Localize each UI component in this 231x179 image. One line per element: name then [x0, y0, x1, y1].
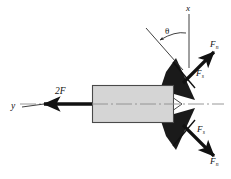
diagram-svg [0, 0, 231, 179]
shear-force-bottom-subscript: s [203, 129, 205, 135]
normal-force-bottom-subscript: n [216, 161, 219, 167]
shear-force-top-label: Fs [196, 69, 204, 78]
axis-x-label: x [186, 4, 190, 13]
figure-canvas: x θ Fn Fs 2F y Fs Fn [0, 0, 231, 179]
shear-force-bottom-symbol: F [197, 124, 203, 134]
shear-force-top-symbol: F [196, 68, 202, 78]
theta-arc [160, 33, 186, 40]
normal-force-bottom-label: Fn [210, 157, 218, 166]
angle-theta-label: θ [165, 27, 169, 36]
normal-force-top-symbol: F [210, 39, 216, 49]
axis-y-label: y [11, 102, 15, 112]
shear-force-bottom-label: Fs [197, 125, 205, 134]
normal-force-top-subscript: n [216, 44, 219, 50]
normal-force-bottom-symbol: F [210, 156, 216, 166]
shear-force-top-subscript: s [202, 73, 204, 79]
applied-force-label: 2F [55, 87, 66, 97]
normal-force-top-label: Fn [210, 40, 218, 49]
